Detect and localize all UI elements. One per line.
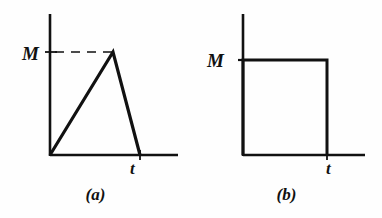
y-axis-label-m-a: M [22,44,39,63]
rectangle-pulse-b [243,60,327,155]
panel-caption-a: (a) [0,186,191,203]
figure-container: M t (a) M t (b) [0,0,382,218]
y-axis-label-m-b: M [207,51,224,70]
x-axis-label-t-b: t [326,160,331,177]
panel-a: M t (a) [0,0,191,218]
panel-caption-b: (b) [191,186,382,203]
panel-b: M t (b) [191,0,382,218]
x-axis-label-t-a: t [130,160,135,177]
triangle-pulse-a [50,52,140,155]
